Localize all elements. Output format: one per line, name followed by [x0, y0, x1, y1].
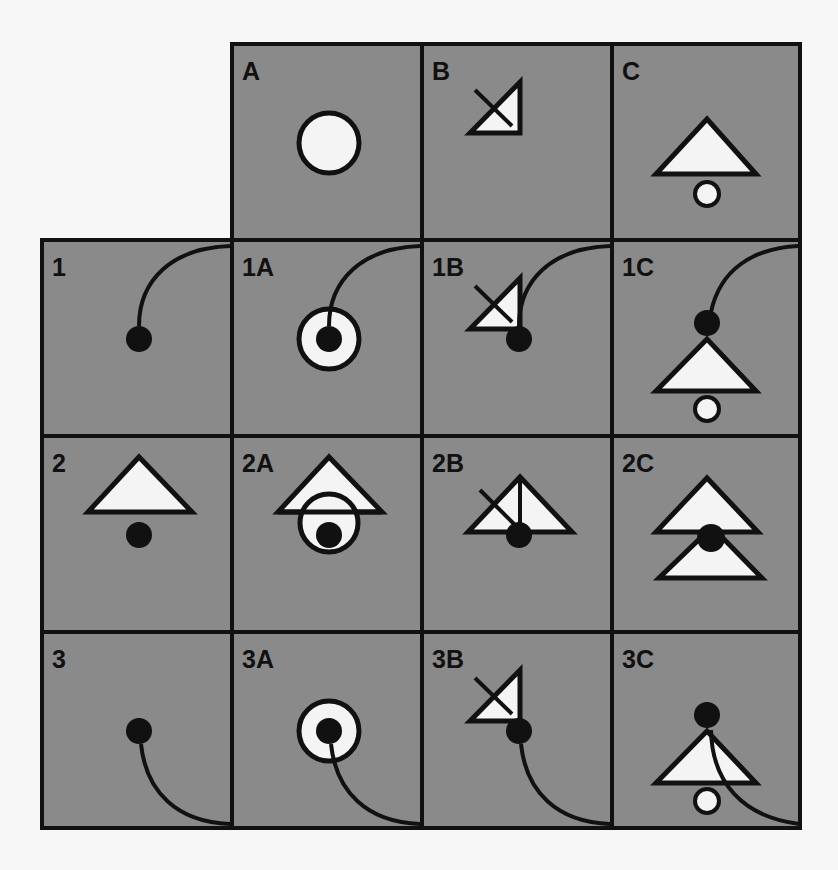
- open-circle-icon: [299, 113, 359, 173]
- grid-cell-3a: 3A: [232, 632, 422, 828]
- filled-dot-icon: [126, 522, 152, 548]
- filled-dot-icon: [506, 718, 532, 744]
- grid-cell-b: B: [422, 44, 612, 240]
- grid-cell-1: 1: [42, 240, 232, 436]
- grid-cell-3c: 3C: [612, 632, 800, 828]
- symbol-matrix-diagram: ABC11A1B1C22A2B2C33A3B3C: [0, 0, 838, 870]
- filled-dot-icon: [316, 522, 342, 548]
- cell-label: 3: [52, 645, 66, 673]
- grid-cell-2b: 2B: [422, 436, 612, 632]
- cell-label: A: [242, 57, 260, 85]
- cell-label: 3B: [432, 645, 464, 673]
- filled-dot-icon: [316, 326, 342, 352]
- grid-cell-2a: 2A: [232, 436, 422, 632]
- grid-cell-2c: 2C: [612, 436, 800, 632]
- cell-label: 3C: [622, 645, 654, 673]
- cell-label: 2C: [622, 449, 654, 477]
- grid-cell-3: 3: [42, 632, 232, 828]
- grid-cell-3b: 3B: [422, 632, 612, 828]
- filled-dot-icon: [506, 326, 532, 352]
- cell-label: 2A: [242, 449, 274, 477]
- cell-label: 1C: [622, 253, 654, 281]
- grid-cell-1a: 1A: [232, 240, 422, 436]
- filled-dot-icon: [316, 718, 342, 744]
- cell-label: 2B: [432, 449, 464, 477]
- filled-dot-icon: [126, 326, 152, 352]
- cell-label: 1: [52, 253, 66, 281]
- grid-cell-a: A: [232, 44, 422, 240]
- filled-dot-icon: [126, 718, 152, 744]
- cell-label: B: [432, 57, 450, 85]
- cell-label: C: [622, 57, 640, 85]
- cell-background: [422, 44, 612, 240]
- filled-dot-icon: [506, 522, 532, 548]
- cell-label: 2: [52, 449, 66, 477]
- filled-dot-icon: [694, 702, 720, 728]
- cell-label: 1B: [432, 253, 464, 281]
- cells-layer: ABC11A1B1C22A2B2C33A3B3C: [42, 44, 800, 828]
- filled-dot-icon: [697, 524, 725, 552]
- cell-symbols: [299, 113, 359, 173]
- grid-cell-2: 2: [42, 436, 232, 632]
- grid-cell-c: C: [612, 44, 800, 240]
- filled-dot-icon: [694, 310, 720, 336]
- grid-cell-1b: 1B: [422, 240, 612, 436]
- grid-cell-1c: 1C: [612, 240, 800, 436]
- cell-label: 3A: [242, 645, 274, 673]
- cell-label: 1A: [242, 253, 274, 281]
